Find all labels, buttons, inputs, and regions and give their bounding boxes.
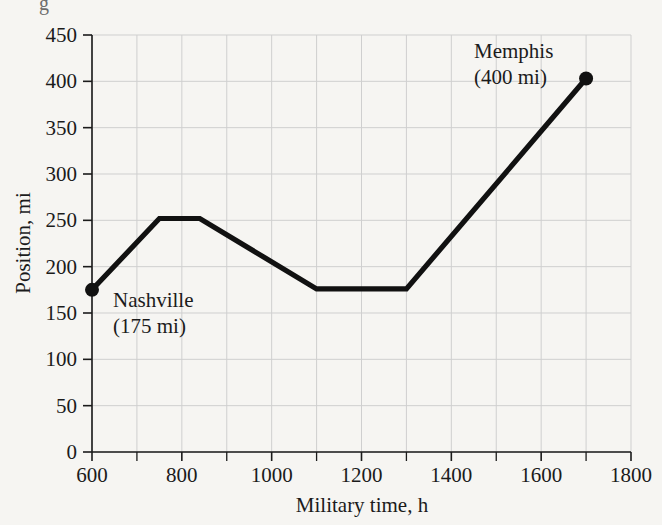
annotation-distance-label: (175 mi) (113, 314, 186, 338)
figure-background (0, 0, 662, 525)
x-tick-label: 1600 (520, 463, 562, 487)
y-tick-label: 100 (46, 347, 78, 371)
y-axis-title: Position, mi (11, 192, 35, 294)
y-tick-label: 50 (56, 394, 77, 418)
x-tick-label: 1800 (610, 463, 652, 487)
annotation-city-label: Memphis (474, 39, 553, 63)
y-tick-label: 400 (46, 69, 78, 93)
data-point-marker (85, 283, 99, 297)
y-tick-label: 200 (46, 255, 78, 279)
x-tick-label: 1400 (430, 463, 472, 487)
x-tick-label: 800 (166, 463, 198, 487)
annotation-distance-label: (400 mi) (474, 65, 547, 89)
x-tick-label: 1000 (251, 463, 293, 487)
y-tick-label: 250 (46, 208, 78, 232)
x-tick-label: 1200 (341, 463, 383, 487)
y-tick-label: 350 (46, 116, 78, 140)
clipped-top-glyph: g (39, 0, 49, 15)
x-tick-label: 600 (76, 463, 108, 487)
figure-root: g 050100150200250300350400450 6008001000… (0, 0, 662, 525)
x-axis-title: Military time, h (296, 493, 429, 517)
data-point-marker (579, 72, 593, 86)
y-tick-label: 0 (67, 440, 78, 464)
annotation-city-label: Nashville (113, 288, 193, 312)
y-tick-label: 450 (46, 23, 78, 47)
y-tick-label: 150 (46, 301, 78, 325)
position-vs-time-chart: g 050100150200250300350400450 6008001000… (0, 0, 662, 525)
y-tick-label: 300 (46, 162, 78, 186)
